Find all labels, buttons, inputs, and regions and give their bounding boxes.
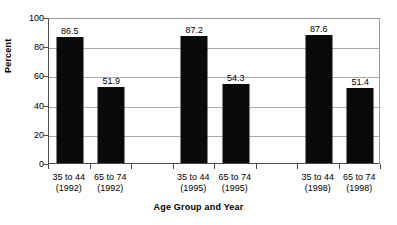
plot-area: 86.551.987.254.387.651.4 bbox=[48, 18, 380, 164]
x-category-age-group: 35 to 44 bbox=[173, 172, 215, 183]
bar[interactable] bbox=[98, 87, 125, 163]
y-tick-label: 0 bbox=[4, 160, 44, 169]
bar-value-label: 87.2 bbox=[185, 26, 203, 35]
x-category-label: 65 to 74(1998) bbox=[339, 172, 381, 194]
x-axis-title: Age Group and Year bbox=[0, 202, 397, 212]
bar-value-label: 51.4 bbox=[351, 78, 369, 87]
x-category-label: 35 to 44(1998) bbox=[297, 172, 339, 194]
x-tick-mark bbox=[214, 164, 215, 169]
y-tick-label: 80 bbox=[4, 43, 44, 52]
bar[interactable] bbox=[347, 88, 374, 163]
x-tick-mark bbox=[339, 164, 340, 169]
x-tick-mark bbox=[131, 164, 132, 169]
x-category-label: 35 to 44(1992) bbox=[48, 172, 90, 194]
bar[interactable] bbox=[305, 35, 332, 163]
bar-slot: 54.3 bbox=[215, 19, 257, 163]
bar-value-label: 87.6 bbox=[310, 25, 328, 34]
x-category-year: (1998) bbox=[297, 183, 339, 194]
bar[interactable] bbox=[222, 84, 249, 163]
x-tick-mark bbox=[90, 164, 91, 169]
x-tick-mark bbox=[173, 164, 174, 169]
y-axis-title: Percent bbox=[3, 57, 13, 73]
bar-chart: Percent 020406080100 86.551.987.254.387.… bbox=[0, 0, 397, 225]
x-category-year: (1992) bbox=[48, 183, 90, 194]
bar-value-label: 86.5 bbox=[61, 27, 79, 36]
bar-value-label: 51.9 bbox=[102, 77, 120, 86]
x-category-age-group: 35 to 44 bbox=[48, 172, 90, 183]
bar-slot: 51.4 bbox=[340, 19, 382, 163]
bar[interactable] bbox=[181, 36, 208, 163]
x-category-age-group: 35 to 44 bbox=[297, 172, 339, 183]
bar-value-label: 54.3 bbox=[227, 74, 245, 83]
x-tick-mark bbox=[256, 164, 257, 169]
x-category-year: (1995) bbox=[173, 183, 215, 194]
x-category-year: (1998) bbox=[339, 183, 381, 194]
x-category-label: 65 to 74(1995) bbox=[214, 172, 256, 194]
x-tick-mark bbox=[297, 164, 298, 169]
bar-slot bbox=[257, 19, 299, 163]
bar-slot bbox=[132, 19, 174, 163]
bar-slot: 51.9 bbox=[91, 19, 133, 163]
bar[interactable] bbox=[56, 37, 83, 163]
y-tick-label: 20 bbox=[4, 131, 44, 140]
x-tick-mark bbox=[380, 164, 381, 169]
y-tick-label: 60 bbox=[4, 72, 44, 81]
x-category-year: (1995) bbox=[214, 183, 256, 194]
x-tick-mark bbox=[48, 164, 49, 169]
bar-slot: 87.6 bbox=[298, 19, 340, 163]
x-category-label: 65 to 74(1992) bbox=[90, 172, 132, 194]
y-tick-label: 40 bbox=[4, 102, 44, 111]
x-category-age-group: 65 to 74 bbox=[90, 172, 132, 183]
bar-slot: 86.5 bbox=[49, 19, 91, 163]
bar-slot: 87.2 bbox=[174, 19, 216, 163]
x-category-age-group: 65 to 74 bbox=[214, 172, 256, 183]
y-tick-label: 100 bbox=[4, 14, 44, 23]
x-category-year: (1992) bbox=[90, 183, 132, 194]
x-category-label: 35 to 44(1995) bbox=[173, 172, 215, 194]
x-category-age-group: 65 to 74 bbox=[339, 172, 381, 183]
